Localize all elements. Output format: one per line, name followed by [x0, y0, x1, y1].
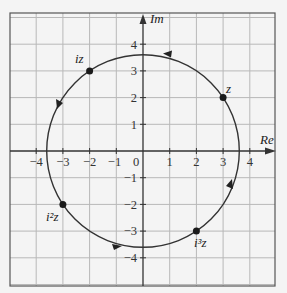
- x-axis-label: Re: [259, 132, 274, 147]
- y-axis-label: Im: [149, 11, 164, 26]
- y-tick-label: 3: [131, 64, 137, 78]
- point-iz: [86, 67, 93, 74]
- point-i2z: [59, 201, 66, 208]
- y-tick-label: 2: [131, 91, 137, 105]
- label-z: z: [225, 81, 231, 96]
- y-tick-label: 4: [131, 38, 138, 52]
- label-iz: iz: [75, 51, 84, 66]
- complex-plane-diagram: −4 −3 −2 −1 0 1 2 3 4 4 3 2 1 −1 −2 −3 −…: [0, 0, 287, 293]
- label-i2z: i²z: [46, 209, 59, 224]
- y-tick-label: −2: [124, 198, 137, 212]
- y-tick-label: −1: [124, 171, 137, 185]
- origin-label: 0: [133, 155, 139, 169]
- x-tick-label: 2: [193, 155, 199, 169]
- y-tick-label: 1: [131, 118, 137, 132]
- x-tick-label: −4: [30, 155, 44, 169]
- x-tick-label: −1: [108, 155, 121, 169]
- label-i3z: i³z: [194, 235, 207, 250]
- y-tick-label: −4: [124, 251, 138, 265]
- x-tick-label: 1: [167, 155, 173, 169]
- x-tick-label: −2: [83, 155, 96, 169]
- x-tick-label: 4: [247, 155, 254, 169]
- x-tick-label: −3: [56, 155, 69, 169]
- y-tick-label: −3: [124, 224, 137, 238]
- x-tick-label: 3: [220, 155, 226, 169]
- point-i3z: [193, 228, 200, 235]
